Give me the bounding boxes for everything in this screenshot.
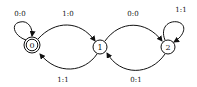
state-0: 0	[24, 37, 40, 53]
transition-1-2-label: 0:0	[127, 10, 138, 18]
state-0-label: 0	[29, 41, 34, 50]
transition-0-1-label: 1:0	[62, 10, 73, 18]
state-2-label: 2	[165, 43, 170, 52]
state-1-label: 1	[97, 43, 102, 52]
state-2: 2	[161, 40, 175, 54]
transition-1-0-label: 1:1	[57, 76, 68, 84]
transition-1-0: 1:1	[40, 54, 97, 84]
transition-0-1: 1:0	[38, 10, 95, 41]
transition-0-0: 0:0	[14, 10, 32, 40]
transition-2-2-label: 1:1	[175, 6, 186, 14]
transition-2-2: 1:1	[163, 6, 186, 42]
transition-0-0-label: 0:0	[14, 10, 25, 18]
state-1: 1	[93, 40, 107, 54]
transition-2-1: 0:1	[107, 53, 165, 84]
state-diagram: 0 1 2 0:0 1:0 1:1 0:0 0:1 1:1	[0, 0, 197, 87]
transition-1-2: 0:0	[105, 10, 162, 41]
transition-2-1-label: 0:1	[130, 76, 141, 84]
